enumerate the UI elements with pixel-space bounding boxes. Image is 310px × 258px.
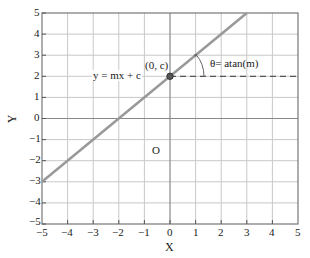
- x-tick: 3: [244, 227, 250, 238]
- y-tick: 5: [34, 7, 40, 18]
- y-tick: −1: [29, 133, 41, 144]
- x-tick: 0: [167, 227, 173, 238]
- y-axis-label: Y: [6, 115, 18, 124]
- y-tick: −2: [29, 154, 41, 165]
- x-tick: −1: [138, 227, 150, 238]
- x-tick: 2: [218, 227, 224, 238]
- x-tick: 1: [193, 227, 199, 238]
- y-tick: 2: [34, 70, 40, 81]
- y-tick: 0: [34, 112, 40, 123]
- x-tick: −3: [87, 227, 99, 238]
- intercept-label: (0, c): [145, 60, 168, 71]
- x-axis-label: X: [165, 241, 174, 253]
- equation-label: y = mx + c: [92, 70, 142, 81]
- intercept-point: [167, 73, 173, 79]
- origin-label: O: [152, 145, 160, 156]
- line-diagram: [0, 0, 310, 258]
- y-tick: 3: [34, 49, 40, 60]
- y-tick: 4: [34, 28, 40, 39]
- x-tick: −4: [61, 227, 73, 238]
- x-tick: −5: [36, 227, 48, 238]
- y-tick: −4: [29, 196, 41, 207]
- y-tick: 1: [34, 91, 40, 102]
- x-tick: 4: [269, 227, 275, 238]
- y-tick: −3: [29, 175, 41, 186]
- x-tick: −2: [112, 227, 124, 238]
- x-tick: 5: [295, 227, 301, 238]
- angle-arc: [196, 54, 204, 76]
- angle-label: θ= atan(m): [210, 58, 258, 69]
- axes: [42, 13, 298, 224]
